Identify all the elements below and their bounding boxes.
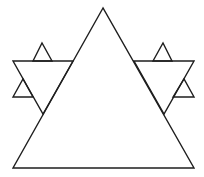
diagram-canvas [0, 0, 204, 177]
background [0, 0, 204, 177]
fractal-triangle-diagram [0, 0, 204, 177]
